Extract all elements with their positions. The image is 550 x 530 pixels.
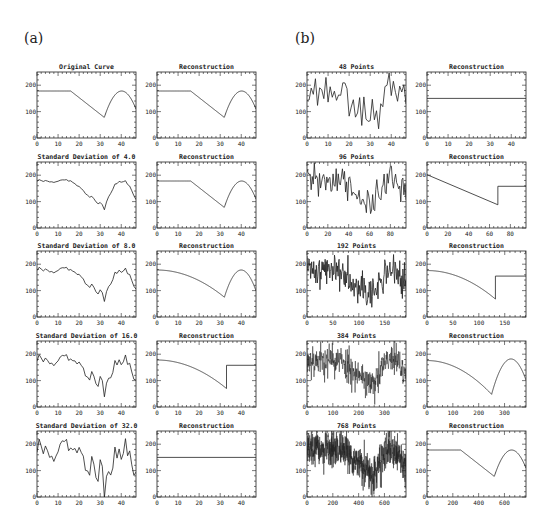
plot-title: Standard Deviation of 32.0 bbox=[36, 422, 138, 430]
y-tick-label: 200 bbox=[25, 81, 36, 88]
y-tick-label: 100 bbox=[415, 377, 426, 384]
y-tick-label: 0 bbox=[302, 493, 306, 500]
y-tick-label: 100 bbox=[415, 108, 426, 115]
y-tick-label: 0 bbox=[152, 224, 156, 231]
x-tick-label: 0 bbox=[305, 409, 309, 416]
plot-b-r4-c0: 768 Points02004006000100200 bbox=[295, 422, 406, 506]
x-tick-label: 10 bbox=[54, 230, 62, 237]
y-tick-label: 0 bbox=[422, 224, 426, 231]
data-line bbox=[37, 355, 136, 397]
data-line bbox=[37, 439, 136, 498]
data-line bbox=[427, 271, 526, 300]
x-tick-label: 10 bbox=[444, 140, 452, 147]
y-tick-label: 200 bbox=[145, 171, 156, 178]
plot-frame bbox=[37, 341, 136, 407]
plot-a-r2-c0: Standard Deviation of 8.0010203040010020… bbox=[25, 242, 136, 326]
x-tick-label: 30 bbox=[97, 319, 105, 326]
plot-frame bbox=[427, 251, 526, 317]
x-tick-label: 0 bbox=[305, 319, 309, 326]
x-tick-label: 80 bbox=[387, 230, 395, 237]
y-tick-label: 0 bbox=[152, 313, 156, 320]
data-line bbox=[427, 450, 526, 476]
y-tick-label: 200 bbox=[295, 81, 306, 88]
y-tick-label: 200 bbox=[25, 350, 36, 357]
data-line bbox=[157, 181, 256, 207]
x-tick-label: 0 bbox=[155, 409, 159, 416]
x-tick-label: 20 bbox=[196, 499, 204, 506]
plot-title: Reconstruction bbox=[449, 422, 504, 430]
plot-title: Reconstruction bbox=[179, 63, 234, 71]
x-tick-label: 0 bbox=[155, 140, 159, 147]
y-tick-label: 200 bbox=[295, 350, 306, 357]
y-tick-label: 0 bbox=[32, 313, 36, 320]
y-tick-label: 200 bbox=[25, 260, 36, 267]
plot-title: Reconstruction bbox=[179, 332, 234, 340]
y-tick-label: 200 bbox=[25, 171, 36, 178]
x-tick-label: 20 bbox=[324, 230, 332, 237]
plot-title: Reconstruction bbox=[449, 242, 504, 250]
x-tick-label: 10 bbox=[174, 319, 182, 326]
x-tick-label: 10 bbox=[174, 140, 182, 147]
y-tick-label: 200 bbox=[415, 440, 426, 447]
y-tick-label: 100 bbox=[145, 198, 156, 205]
x-tick-label: 50 bbox=[449, 319, 457, 326]
data-line bbox=[157, 270, 256, 297]
plot-a-r3-c0: Standard Deviation of 16.001020304001002… bbox=[25, 332, 137, 416]
x-tick-label: 40 bbox=[508, 140, 516, 147]
plot-title: Reconstruction bbox=[449, 332, 504, 340]
x-tick-label: 20 bbox=[196, 319, 204, 326]
x-tick-label: 150 bbox=[379, 319, 390, 326]
y-tick-label: 0 bbox=[32, 403, 36, 410]
y-tick-label: 200 bbox=[25, 440, 36, 447]
y-tick-label: 100 bbox=[415, 467, 426, 474]
y-tick-label: 100 bbox=[295, 108, 306, 115]
y-tick-label: 200 bbox=[295, 260, 306, 267]
plot-title: Reconstruction bbox=[179, 422, 234, 430]
x-tick-label: 10 bbox=[324, 140, 332, 147]
x-tick-label: 0 bbox=[425, 409, 429, 416]
y-tick-label: 200 bbox=[145, 81, 156, 88]
data-line bbox=[157, 360, 256, 389]
x-tick-label: 30 bbox=[217, 409, 225, 416]
plot-title: Original Curve bbox=[59, 63, 114, 71]
x-tick-label: 40 bbox=[238, 140, 246, 147]
y-tick-label: 0 bbox=[32, 134, 36, 141]
plot-b-r3-c0: 384 Points01002003000100200 bbox=[295, 332, 406, 416]
x-tick-label: 40 bbox=[238, 499, 246, 506]
x-tick-label: 30 bbox=[217, 499, 225, 506]
y-tick-label: 100 bbox=[25, 287, 36, 294]
x-tick-label: 0 bbox=[35, 140, 39, 147]
x-tick-label: 10 bbox=[54, 140, 62, 147]
plot-title: Reconstruction bbox=[449, 153, 504, 161]
x-tick-label: 0 bbox=[425, 319, 429, 326]
y-tick-label: 0 bbox=[152, 403, 156, 410]
x-tick-label: 30 bbox=[97, 140, 105, 147]
x-tick-label: 0 bbox=[425, 230, 429, 237]
x-tick-label: 100 bbox=[353, 319, 364, 326]
x-tick-label: 20 bbox=[346, 140, 354, 147]
data-line bbox=[427, 359, 526, 394]
y-tick-label: 100 bbox=[295, 467, 306, 474]
x-tick-label: 30 bbox=[367, 140, 375, 147]
x-tick-label: 10 bbox=[54, 499, 62, 506]
plot-b-r2-c0: 192 Points0501001500100200 bbox=[295, 242, 406, 326]
plot-frame bbox=[157, 72, 256, 138]
plot-a-r3-c1: Reconstruction0102030400100200 bbox=[145, 332, 256, 416]
figure-canvas: Original Curve0102030400100200Reconstruc… bbox=[0, 0, 550, 530]
plot-frame bbox=[307, 72, 406, 138]
y-tick-label: 0 bbox=[152, 134, 156, 141]
x-tick-label: 20 bbox=[444, 230, 452, 237]
plot-frame bbox=[157, 251, 256, 317]
plot-title: 192 Points bbox=[337, 242, 376, 250]
y-tick-label: 200 bbox=[145, 260, 156, 267]
y-tick-label: 100 bbox=[25, 467, 36, 474]
data-line bbox=[307, 163, 406, 214]
plot-a-r4-c0: Standard Deviation of 32.001020304001002… bbox=[25, 422, 137, 506]
y-tick-label: 100 bbox=[145, 108, 156, 115]
x-tick-label: 30 bbox=[217, 319, 225, 326]
x-tick-label: 20 bbox=[76, 319, 84, 326]
y-tick-label: 100 bbox=[25, 198, 36, 205]
data-line bbox=[37, 267, 136, 301]
y-tick-label: 0 bbox=[302, 134, 306, 141]
x-tick-label: 80 bbox=[507, 230, 515, 237]
